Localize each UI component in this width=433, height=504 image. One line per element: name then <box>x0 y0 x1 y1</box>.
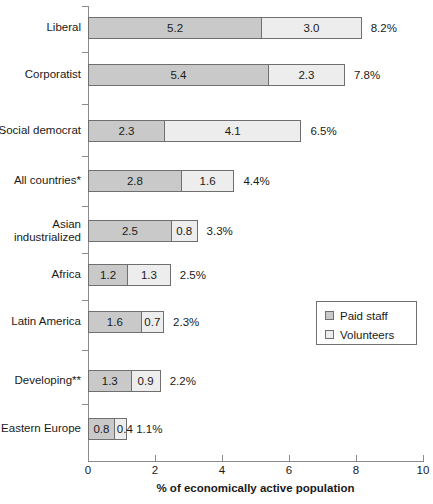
legend-item-volunteers: Volunteers <box>325 326 416 343</box>
legend-label-paid-staff: Paid staff <box>340 310 388 322</box>
segment-value-volunteers: 1.6 <box>200 175 216 187</box>
category-label: Corporatist <box>0 68 81 82</box>
segment-value-paid-staff: 2.5 <box>122 225 138 237</box>
y-tick-mark <box>82 6 88 7</box>
x-tick-label: 10 <box>403 464 433 476</box>
segment-value-volunteers: 4.1 <box>225 125 241 137</box>
category-label: Latin America <box>0 315 81 329</box>
segment-value-volunteers: 2.3 <box>298 69 314 81</box>
y-tick-mark <box>82 156 88 157</box>
bar-segment-paid-staff[interactable]: 1.3 <box>88 370 132 392</box>
segment-value-paid-staff: 2.3 <box>119 125 135 137</box>
bar-total-label: 2.2% <box>170 375 196 387</box>
stacked-bar[interactable]: 5.23.0 <box>88 17 362 39</box>
x-tick-mark <box>289 455 290 462</box>
bar-segment-paid-staff[interactable]: 2.5 <box>88 220 172 242</box>
segment-value-paid-staff: 0.8 <box>93 423 109 435</box>
bar-segment-paid-staff[interactable]: 5.4 <box>88 64 269 86</box>
stacked-bar[interactable]: 5.42.3 <box>88 64 345 86</box>
bar-segment-paid-staff[interactable]: 0.8 <box>88 418 115 440</box>
segment-value-paid-staff: 5.4 <box>170 69 186 81</box>
category-label: Social democrat <box>0 124 81 138</box>
bar-row: Corporatist5.42.37.8% <box>0 64 433 86</box>
y-tick-mark <box>82 404 88 405</box>
x-tick-label: 8 <box>336 464 376 476</box>
bar-segment-volunteers[interactable]: 2.3 <box>268 64 345 86</box>
category-label: Developing** <box>0 374 81 388</box>
segment-value-volunteers: 3.0 <box>303 22 319 34</box>
bar-row: Africa1.21.32.5% <box>0 264 433 286</box>
bar-total-label: 3.3% <box>207 225 233 237</box>
bar-total-label: 7.8% <box>354 69 380 81</box>
category-label: Eastern Europe <box>0 422 81 436</box>
chart-legend: Paid staff Volunteers <box>316 301 417 345</box>
bar-segment-volunteers[interactable]: 0.9 <box>131 370 161 392</box>
bar-row: Social democrat2.34.16.5% <box>0 120 433 142</box>
category-label: All countries* <box>0 174 81 188</box>
legend-label-volunteers: Volunteers <box>340 329 394 341</box>
legend-swatch-paid-staff <box>325 311 334 320</box>
segment-value-volunteers: 1.3 <box>141 269 157 281</box>
bar-row: All countries*2.81.64.4% <box>0 170 433 192</box>
bar-total-label: 2.5% <box>180 269 206 281</box>
category-label: Africa <box>0 268 81 282</box>
stacked-bar[interactable]: 1.60.7 <box>88 311 164 333</box>
category-label: Asian industrialized <box>0 218 81 245</box>
y-tick-mark <box>82 300 88 301</box>
bar-segment-volunteers[interactable]: 1.6 <box>181 170 235 192</box>
bar-total-label: 8.2% <box>371 22 397 34</box>
legend-swatch-volunteers <box>325 330 334 339</box>
x-tick-label: 0 <box>68 464 108 476</box>
segment-value-paid-staff: 5.2 <box>167 22 183 34</box>
stacked-bar[interactable]: 1.30.9 <box>88 370 161 392</box>
bar-segment-volunteers[interactable]: 0.4 <box>114 418 127 440</box>
x-tick-label: 2 <box>135 464 175 476</box>
bar-segment-volunteers[interactable]: 0.8 <box>171 220 198 242</box>
bar-segment-paid-staff[interactable]: 5.2 <box>88 17 262 39</box>
bar-total-label: 2.3% <box>173 316 199 328</box>
bar-total-label: 4.4% <box>243 175 269 187</box>
stacked-bar[interactable]: 1.21.3 <box>88 264 171 286</box>
category-label: Liberal <box>0 21 81 35</box>
segment-value-volunteers: 0.8 <box>176 225 192 237</box>
bar-segment-volunteers[interactable]: 1.3 <box>127 264 171 286</box>
bar-segment-volunteers[interactable]: 0.7 <box>141 311 164 333</box>
segment-value-paid-staff: 1.6 <box>107 316 123 328</box>
segment-value-volunteers: 0.7 <box>144 316 160 328</box>
bar-segment-paid-staff[interactable]: 1.6 <box>88 311 142 333</box>
segment-value-volunteers: 0.9 <box>138 375 154 387</box>
x-axis-line <box>88 461 424 462</box>
y-tick-mark <box>82 206 88 207</box>
bar-total-label: 1.1% <box>136 423 162 435</box>
segment-value-volunteers: 0.4 <box>117 423 133 435</box>
y-tick-mark <box>82 350 88 351</box>
y-tick-mark <box>82 253 88 254</box>
x-tick-mark <box>222 455 223 462</box>
x-tick-mark <box>88 455 89 462</box>
segment-value-paid-staff: 2.8 <box>127 175 143 187</box>
bar-segment-paid-staff[interactable]: 1.2 <box>88 264 128 286</box>
y-tick-mark <box>82 52 88 53</box>
segment-value-paid-staff: 1.2 <box>100 269 116 281</box>
bar-row: Liberal5.23.08.2% <box>0 17 433 39</box>
bar-row: Asian industrialized2.50.83.3% <box>0 220 433 242</box>
stacked-bar[interactable]: 2.34.1 <box>88 120 301 142</box>
stacked-bar[interactable]: 2.50.8 <box>88 220 198 242</box>
x-tick-label: 4 <box>202 464 242 476</box>
y-tick-mark <box>82 104 88 105</box>
segment-value-paid-staff: 1.3 <box>102 375 118 387</box>
stacked-bar[interactable]: 0.80.4 <box>88 418 127 440</box>
x-tick-mark <box>356 455 357 462</box>
stacked-bar-chart: 0246810 Liberal5.23.08.2%Corporatist5.42… <box>0 0 433 504</box>
bar-row: Developing**1.30.92.2% <box>0 370 433 392</box>
bar-total-label: 6.5% <box>310 125 336 137</box>
bar-segment-paid-staff[interactable]: 2.3 <box>88 120 165 142</box>
x-tick-mark <box>423 455 424 462</box>
bar-segment-volunteers[interactable]: 3.0 <box>261 17 362 39</box>
bar-segment-paid-staff[interactable]: 2.8 <box>88 170 182 192</box>
legend-item-paid-staff: Paid staff <box>325 307 416 324</box>
x-tick-mark <box>155 455 156 462</box>
stacked-bar[interactable]: 2.81.6 <box>88 170 234 192</box>
bar-row: Eastern Europe0.80.41.1% <box>0 418 433 440</box>
bar-segment-volunteers[interactable]: 4.1 <box>164 120 301 142</box>
